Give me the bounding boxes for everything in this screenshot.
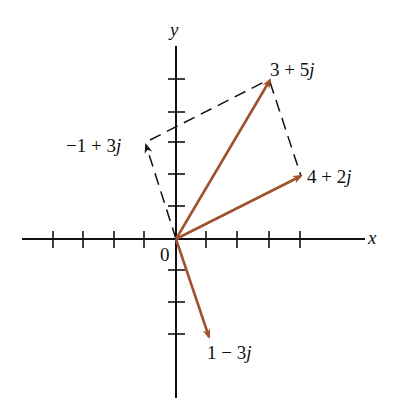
y-axis-label: y xyxy=(170,20,178,39)
label-minus1-plus3j: −1 + 3j xyxy=(66,136,121,155)
x-axis-label: x xyxy=(368,228,376,247)
label-4-plus2j-j: j xyxy=(346,166,351,187)
label-minus1-plus3j-num: −1 + 3 xyxy=(66,135,116,156)
vector-1-minus3j xyxy=(176,239,209,337)
vector-minus1-plus3j xyxy=(146,145,176,239)
label-1-minus3j-j: j xyxy=(246,342,251,363)
label-3-plus5j-num: 3 + 5 xyxy=(270,59,309,80)
label-1-minus3j: 1 − 3j xyxy=(207,343,252,362)
origin-label: 0 xyxy=(160,245,170,264)
dashed-edge-top xyxy=(150,80,268,140)
complex-plane-diagram xyxy=(0,0,398,419)
label-4-plus2j: 4 + 2j xyxy=(307,167,352,186)
label-3-plus5j: 3 + 5j xyxy=(270,60,315,79)
dashed-edge-right xyxy=(270,82,301,176)
label-3-plus5j-j: j xyxy=(309,59,314,80)
label-4-plus2j-num: 4 + 2 xyxy=(307,166,346,187)
label-minus1-plus3j-j: j xyxy=(116,135,121,156)
label-1-minus3j-num: 1 − 3 xyxy=(207,342,246,363)
